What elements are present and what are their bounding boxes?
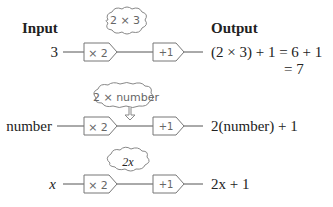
- box-label: × 2: [88, 179, 108, 192]
- row-output: 2(number) + 1: [211, 118, 298, 135]
- row-input: number: [6, 118, 52, 134]
- row-output-result: = 7: [284, 61, 304, 77]
- row-input: 3: [51, 44, 59, 60]
- box-label: +1: [159, 121, 174, 132]
- input-header: Input: [22, 20, 58, 36]
- function-machine-diagram: Input Output 2 × 3 3 × 2 +1 (2 × 3) + 1 …: [0, 0, 333, 207]
- row-output: (2 × 3) + 1 = 6 + 1: [211, 44, 322, 61]
- row-3-machine: 2x x × 2 +1 2x + 1: [48, 147, 249, 193]
- box-label: × 2: [88, 121, 108, 134]
- cloud-text: 2 × number: [93, 91, 160, 104]
- row-input: x: [48, 176, 56, 192]
- cloud-text: 2x: [122, 155, 134, 169]
- down-arrow-icon: [125, 107, 135, 120]
- row-1-machine: 2 × 3 3 × 2 +1 (2 × 3) + 1 = 6 + 1 = 7: [51, 7, 323, 77]
- row-output: 2x + 1: [211, 176, 249, 192]
- output-header: Output: [211, 20, 258, 36]
- box-label: × 2: [88, 47, 108, 60]
- box-label: +1: [159, 47, 174, 58]
- box-label: +1: [159, 179, 174, 190]
- row-2-machine: 2 × number number × 2 +1 2(number) + 1: [6, 83, 298, 136]
- cloud-text: 2 × 3: [110, 14, 140, 27]
